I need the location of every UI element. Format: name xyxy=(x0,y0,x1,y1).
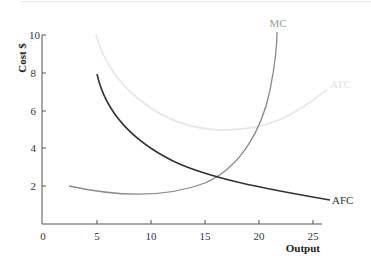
y-tick-2: 2 xyxy=(31,180,37,192)
y-tick-8: 8 xyxy=(31,67,37,79)
y-ticks xyxy=(42,35,46,186)
y-tick-6: 6 xyxy=(31,105,37,117)
mc-label: MC xyxy=(269,17,286,29)
atc-label: ATC xyxy=(330,78,351,90)
afc-label: AFC xyxy=(332,194,353,206)
cost-curves-chart: 2 4 6 8 10 0 5 10 15 20 25 Cost $ Output… xyxy=(0,0,371,266)
x-axis-title: Output xyxy=(286,242,321,254)
x-tick-5: 5 xyxy=(94,230,100,242)
y-tick-4: 4 xyxy=(31,142,37,154)
x-ticks xyxy=(97,220,313,224)
y-tick-10: 10 xyxy=(29,29,41,41)
mc-curve xyxy=(69,32,277,194)
x-tick-25: 25 xyxy=(308,230,320,242)
y-axis-title: Cost $ xyxy=(16,43,28,73)
x-tick-20: 20 xyxy=(254,230,266,242)
atc-curve xyxy=(96,35,327,130)
x-tick-15: 15 xyxy=(200,230,212,242)
x-tick-0: 0 xyxy=(40,230,46,242)
x-tick-10: 10 xyxy=(146,230,158,242)
